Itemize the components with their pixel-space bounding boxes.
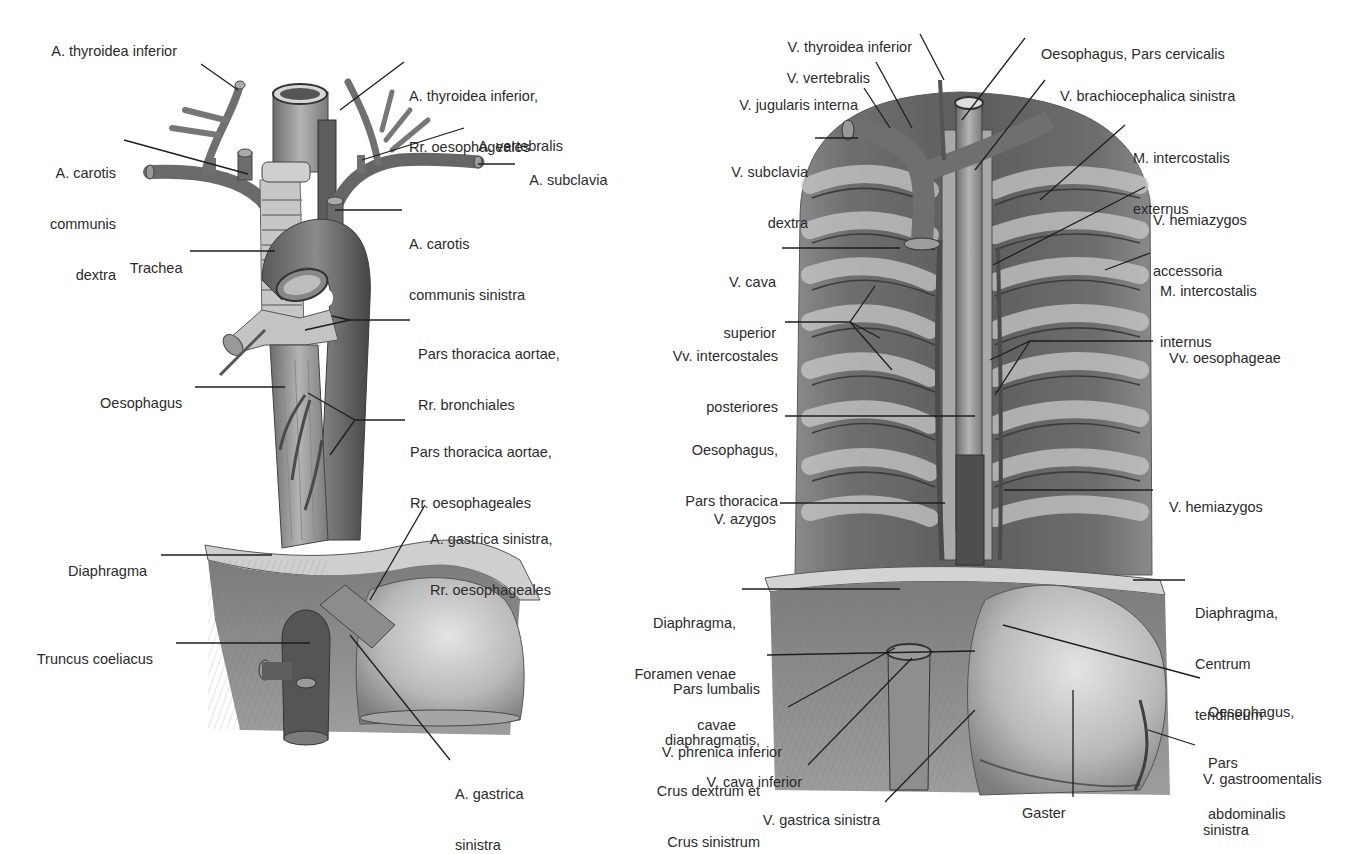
label-line: communis sinistra <box>409 287 525 304</box>
label-truncus-coeliacus: Truncus coeliacus <box>29 634 153 668</box>
label-line: dextra <box>36 267 116 284</box>
label-text: Gaster <box>1022 805 1066 821</box>
label-line: Crus sinistrum <box>620 834 760 851</box>
label-line: Pars thoracica aortae, <box>418 346 560 363</box>
label-line: communis <box>36 216 116 233</box>
label-line: Oesophagus, <box>1208 704 1294 721</box>
label-line: Pars lumbalis <box>620 681 760 698</box>
label-text: Oesophagus, Pars cervicalis <box>1041 46 1225 62</box>
right-panel-illustration <box>765 80 1170 795</box>
label-v-phrenica-inferior: V. phrenica inferior <box>620 727 782 761</box>
label-line: Vv. intercostales <box>640 348 778 365</box>
label-a-gastrica-sinistra: A. gastrica sinistra <box>455 752 524 854</box>
label-line: sinistra <box>1203 822 1322 839</box>
label-v-cava-inferior: V. cava inferior <box>640 757 802 791</box>
label-oesophagus: Oesophagus <box>92 378 182 412</box>
label-text: V. cava inferior <box>707 774 802 790</box>
label-line: M. intercostalis <box>1133 150 1230 167</box>
label-text: V. hemiazygos <box>1169 499 1263 515</box>
label-a-thyroidea-inferior-rr-oesophageales: A. thyroidea inferior, Rr. oesophageales <box>409 54 538 173</box>
label-line: V. cava <box>700 274 776 291</box>
label-line: Diaphragma, <box>1195 605 1278 622</box>
label-v-azygos: V. azygos <box>660 494 776 528</box>
label-line: A. gastrica <box>455 786 524 803</box>
label-diaphragma: Diaphragma <box>60 546 147 580</box>
label-v-thyroidea-inferior: V. thyroidea inferior <box>760 22 912 56</box>
label-v-subclavia-dextra: V. subclavia dextra <box>700 130 808 249</box>
label-line: V. gastroomentalis <box>1203 771 1322 788</box>
label-a-thyroidea-inferior: A. thyroidea inferior <box>44 26 177 60</box>
label-v-hemiazygos: V. hemiazygos <box>1161 482 1263 516</box>
label-a-carotis-communis-dextra: A. carotis communis dextra <box>36 131 116 301</box>
label-line: Pars thoracica aortae, <box>410 444 552 461</box>
label-line: Rr. oesophageales <box>430 582 553 599</box>
label-oesophagus-pars-cervicalis: Oesophagus, Pars cervicalis <box>1033 29 1225 63</box>
label-line: Diaphragma, <box>620 615 736 632</box>
label-text: V. jugularis interna <box>739 97 858 113</box>
label-a-carotis-communis-sinistra: A. carotis communis sinistra <box>409 202 525 321</box>
label-text: V. brachiocephalica sinistra <box>1060 88 1235 104</box>
label-a-vertebralis: A. vertebralis <box>471 121 563 155</box>
label-text: V. gastrica sinistra <box>763 812 880 828</box>
label-text: Truncus coeliacus <box>37 651 153 667</box>
label-vv-oesophageae: Vv. oesophageae <box>1161 333 1281 367</box>
label-a-subclavia: A. subclavia <box>522 155 607 189</box>
label-line: sinistra <box>455 837 524 854</box>
label-v-brachiocephalica-sinistra: V. brachiocephalica sinistra <box>1052 71 1235 105</box>
label-text: A. vertebralis <box>478 138 563 154</box>
label-trachea: Trachea <box>122 243 182 277</box>
label-a-gastrica-sinistra-rr-oesophageales: A. gastrica sinistra, Rr. oesophageales <box>430 497 553 616</box>
label-text: V. azygos <box>714 511 776 527</box>
label-line: A. gastrica sinistra, <box>430 531 553 548</box>
label-text: A. subclavia <box>529 172 607 188</box>
label-line: Oesophagus, <box>640 442 778 459</box>
label-line: A. carotis <box>36 165 116 182</box>
label-line: A. thyroidea inferior, <box>409 88 538 105</box>
label-gaster: Gaster <box>1014 788 1066 822</box>
label-text: Diaphragma <box>68 563 147 579</box>
label-line: V. hemiazygos <box>1153 212 1247 229</box>
label-v-jugularis-interna: V. jugularis interna <box>700 80 858 114</box>
label-text: A. thyroidea inferior <box>51 43 177 59</box>
label-text: Vv. oesophageae <box>1169 350 1281 366</box>
label-text: Trachea <box>130 260 183 276</box>
label-v-gastroomentalis-sinistra: V. gastroomentalis sinistra <box>1203 737 1322 854</box>
label-text: Oesophagus <box>100 395 182 411</box>
label-line: A. carotis <box>409 236 525 253</box>
label-v-gastrica-sinistra: V. gastrica sinistra <box>700 795 880 829</box>
label-line: V. subclavia <box>700 164 808 181</box>
label-line: dextra <box>700 215 808 232</box>
label-line: M. intercostalis <box>1160 283 1257 300</box>
